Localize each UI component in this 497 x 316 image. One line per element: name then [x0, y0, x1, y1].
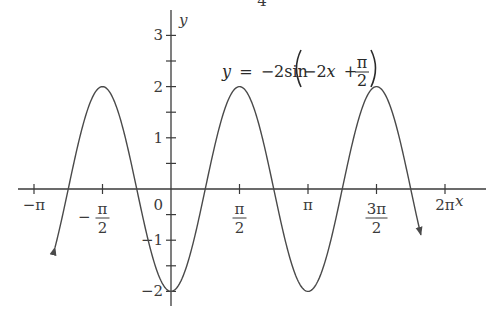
- y-tick-label: −1: [141, 231, 163, 249]
- function-graph: 4 xy0−π−π2π2π3π22π321−1−2 y = −2sin −2x …: [0, 0, 497, 316]
- x-axis-label: x: [455, 192, 464, 210]
- x-tick-label: −π: [23, 196, 46, 214]
- y-tick-label: 3: [153, 26, 163, 44]
- x-tick-frac-num: π: [98, 200, 108, 218]
- x-tick-frac-den: 2: [235, 219, 245, 237]
- axes: [18, 10, 486, 306]
- origin-label: 0: [153, 196, 163, 214]
- paren-right: [371, 50, 376, 87]
- x-tick-label: π: [303, 196, 313, 214]
- x-tick-sign: −: [78, 208, 91, 226]
- equation-frac-num: π: [357, 53, 368, 72]
- y-tick-label: −2: [141, 282, 163, 300]
- equation-inner: −2x +: [303, 62, 357, 81]
- x-tick-frac-den: 2: [372, 219, 382, 237]
- equation-label: y = −2sin: [221, 62, 308, 81]
- top-fragment: 4: [257, 0, 267, 10]
- x-tick-frac-num: 3π: [367, 200, 387, 218]
- x-tick-frac-num: π: [235, 200, 245, 218]
- x-tick-frac-den: 2: [98, 219, 108, 237]
- y-tick-label: 1: [153, 129, 163, 147]
- y-tick-label: 2: [153, 78, 163, 96]
- y-axis-label: y: [178, 11, 188, 29]
- tick-labels: xy0−π−π2π2π3π22π321−1−2: [23, 11, 464, 300]
- equation-frac-den: 2: [357, 71, 367, 90]
- x-tick-label: 2π: [435, 196, 455, 214]
